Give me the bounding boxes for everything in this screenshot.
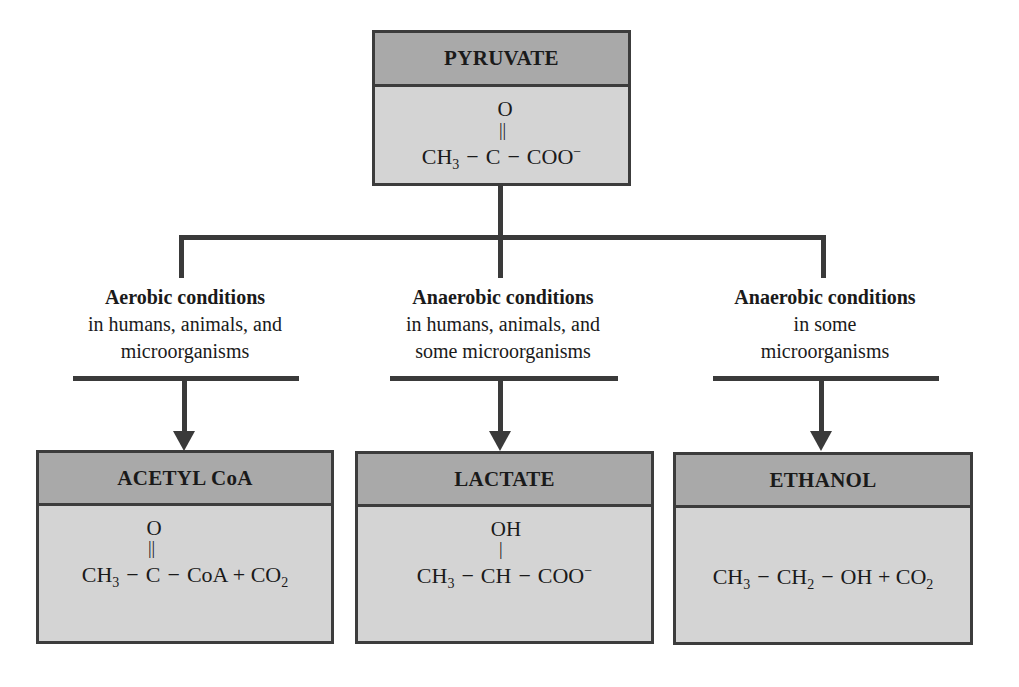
carbonyl-oxygen: O bbox=[144, 518, 164, 539]
ethanol-formula-line: CH3−CH2−OH + CO2 bbox=[676, 564, 970, 593]
pyruvate-formula: O || CH3−C−COO− bbox=[375, 87, 628, 183]
ethanol-title: ETHANOL bbox=[676, 455, 970, 508]
branch-drop-middle bbox=[498, 235, 503, 278]
arrow-down-icon bbox=[489, 431, 511, 451]
condition-bar-middle bbox=[390, 376, 618, 381]
acetyl-coa-title: ACETYL CoA bbox=[39, 453, 331, 506]
arrow-shaft-middle bbox=[498, 378, 503, 434]
ethanol-formula: CH3−CH2−OH + CO2 bbox=[676, 508, 970, 642]
arrow-down-icon bbox=[173, 431, 195, 451]
double-bond: || bbox=[499, 121, 506, 139]
lactate-formula: OH | CH3−CH−COO− bbox=[358, 507, 651, 641]
acetyl-coa-box: ACETYL CoA O || CH3−C−CoA + CO2 bbox=[36, 450, 334, 644]
arrow-shaft-left bbox=[182, 378, 187, 434]
ethanol-box: ETHANOL CH3−CH2−OH + CO2 bbox=[673, 452, 973, 645]
arrow-down-icon bbox=[810, 431, 832, 451]
arrow-shaft-right bbox=[819, 378, 824, 434]
condition-label-aerobic: Aerobic conditions in humans, animals, a… bbox=[25, 284, 345, 365]
acetyl-coa-formula-line: CH3−C−CoA + CO2 bbox=[39, 562, 331, 591]
pyruvate-box: PYRUVATE O || CH3−C−COO− bbox=[372, 30, 631, 186]
carbonyl-oxygen: O bbox=[495, 99, 515, 120]
condition-label-anaerobic-microorganisms: Anaerobic conditions in some microorgani… bbox=[665, 284, 985, 365]
acetyl-coa-formula: O || CH3−C−CoA + CO2 bbox=[39, 506, 331, 641]
condition-label-anaerobic-humans: Anaerobic conditions in humans, animals,… bbox=[343, 284, 663, 365]
single-bond: | bbox=[499, 540, 503, 558]
lactate-box: LACTATE OH | CH3−CH−COO− bbox=[355, 451, 654, 644]
condition-bar-right bbox=[713, 376, 939, 381]
branch-drop-left bbox=[179, 235, 184, 278]
lactate-formula-line: CH3−CH−COO− bbox=[358, 563, 651, 592]
hydroxyl-group: OH bbox=[486, 519, 526, 540]
stem-line bbox=[498, 185, 503, 239]
pyruvate-title: PYRUVATE bbox=[375, 33, 628, 87]
pyruvate-formula-line: CH3−C−COO− bbox=[375, 144, 628, 173]
double-bond: || bbox=[148, 539, 155, 557]
branch-drop-right bbox=[821, 235, 826, 278]
lactate-title: LACTATE bbox=[358, 454, 651, 507]
